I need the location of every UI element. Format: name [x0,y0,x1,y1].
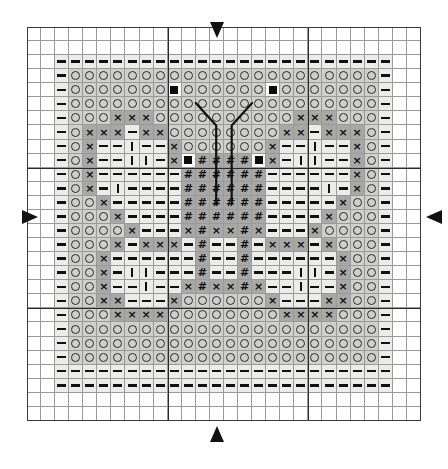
grid-cell[interactable] [322,69,336,83]
grid-cell[interactable] [125,238,139,252]
grid-cell[interactable] [111,351,125,365]
grid-cell[interactable]: # [182,196,196,210]
grid-cell[interactable] [27,97,41,111]
grid-cell[interactable] [69,69,83,83]
grid-cell[interactable] [83,224,97,238]
grid-cell[interactable] [196,379,210,393]
grid-cell[interactable] [266,379,280,393]
grid-cell[interactable] [41,41,55,55]
grid-cell[interactable] [393,224,407,238]
grid-cell[interactable]: × [83,182,97,196]
grid-cell[interactable] [365,168,379,182]
grid-cell[interactable] [365,125,379,139]
grid-cell[interactable]: # [238,210,252,224]
grid-cell[interactable]: × [337,252,351,266]
grid-cell[interactable] [280,210,294,224]
grid-cell[interactable] [83,252,97,266]
grid-cell[interactable] [337,407,351,421]
grid-cell[interactable] [266,210,280,224]
grid-cell[interactable] [196,308,210,322]
grid-cell[interactable] [280,322,294,336]
grid-cell[interactable] [83,294,97,308]
grid-cell[interactable] [407,196,421,210]
grid-cell[interactable] [379,337,393,351]
grid-cell[interactable] [168,365,182,379]
grid-cell[interactable] [210,69,224,83]
grid-cell[interactable]: × [252,224,266,238]
grid-cell[interactable] [154,266,168,280]
grid-cell[interactable] [182,351,196,365]
grid-cell[interactable] [55,407,69,421]
grid-cell[interactable] [97,83,111,97]
grid-cell[interactable] [379,294,393,308]
grid-cell[interactable] [379,266,393,280]
grid-cell[interactable] [266,322,280,336]
grid-cell[interactable] [196,393,210,407]
grid-cell[interactable] [280,294,294,308]
grid-cell[interactable] [27,27,41,41]
grid-cell[interactable]: × [294,308,308,322]
grid-cell[interactable] [111,379,125,393]
grid-cell[interactable] [154,210,168,224]
grid-cell[interactable] [27,280,41,294]
grid-cell[interactable] [351,379,365,393]
grid-cell[interactable] [252,252,266,266]
grid-cell[interactable] [294,69,308,83]
grid-cell[interactable] [125,210,139,224]
grid-cell[interactable] [140,280,154,294]
grid-cell[interactable] [379,97,393,111]
grid-cell[interactable] [308,379,322,393]
grid-cell[interactable] [97,322,111,336]
grid-cell[interactable] [322,196,336,210]
grid-cell[interactable] [41,27,55,41]
grid-cell[interactable] [125,196,139,210]
grid-cell[interactable] [365,154,379,168]
grid-cell[interactable]: × [252,280,266,294]
grid-cell[interactable] [365,294,379,308]
grid-cell[interactable] [182,125,196,139]
grid-cell[interactable] [337,379,351,393]
grid-cell[interactable] [154,83,168,97]
grid-cell[interactable] [224,308,238,322]
grid-cell[interactable] [379,407,393,421]
grid-cell[interactable] [294,351,308,365]
grid-cell[interactable] [238,97,252,111]
grid-cell[interactable] [393,168,407,182]
grid-cell[interactable] [379,252,393,266]
grid-cell[interactable] [252,294,266,308]
grid-cell[interactable]: × [83,125,97,139]
grid-cell[interactable] [55,27,69,41]
grid-cell[interactable] [69,379,83,393]
grid-cell[interactable] [407,322,421,336]
grid-cell[interactable]: # [224,196,238,210]
grid-cell[interactable] [111,97,125,111]
grid-cell[interactable] [55,125,69,139]
grid-cell[interactable]: # [252,182,266,196]
grid-cell[interactable] [154,55,168,69]
grid-cell[interactable] [97,308,111,322]
grid-cell[interactable] [308,125,322,139]
grid-cell[interactable] [210,252,224,266]
grid-cell[interactable] [168,27,182,41]
grid-cell[interactable] [294,407,308,421]
grid-cell[interactable] [294,379,308,393]
grid-cell[interactable] [294,168,308,182]
grid-cell[interactable] [140,27,154,41]
grid-cell[interactable] [252,407,266,421]
grid-cell[interactable] [266,125,280,139]
grid-cell[interactable] [337,111,351,125]
grid-cell[interactable] [308,154,322,168]
grid-cell[interactable] [407,337,421,351]
grid-cell[interactable] [111,154,125,168]
grid-cell[interactable] [351,83,365,97]
grid-cell[interactable] [280,97,294,111]
grid-cell[interactable] [97,111,111,125]
grid-cell[interactable] [322,97,336,111]
grid-cell[interactable] [111,69,125,83]
grid-cell[interactable] [308,238,322,252]
grid-cell[interactable] [125,154,139,168]
grid-cell[interactable] [55,294,69,308]
grid-cell[interactable] [154,111,168,125]
grid-cell[interactable] [393,322,407,336]
grid-cell[interactable] [97,140,111,154]
